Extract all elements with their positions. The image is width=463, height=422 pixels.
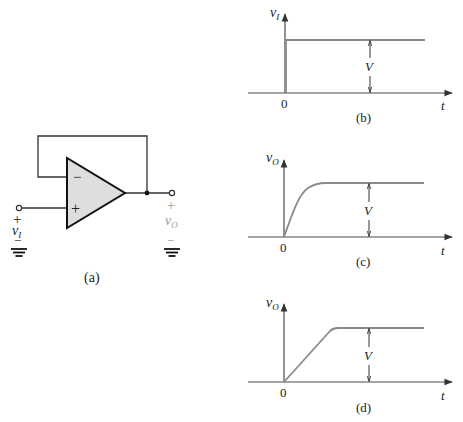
y-axis-label: vO [266, 150, 279, 167]
output-plus-sign: + [167, 198, 175, 213]
y-axis-label: vO [266, 295, 279, 312]
output-terminal [169, 190, 174, 195]
y-axis-label: vI [270, 5, 280, 22]
x-axis-label: t [441, 388, 445, 403]
amplitude-label: V [365, 59, 375, 74]
junction-dot [145, 191, 150, 196]
diagram-canvas: − + + vI − + vO − (a) [0, 0, 463, 422]
voltage-follower-circuit: − + + vI − + vO − (a) [11, 136, 180, 286]
output-voltage-label: vO [165, 213, 178, 230]
graph-b-input-step: V vI 0 t (b) [248, 5, 452, 125]
opamp-inverting-sign: − [73, 169, 81, 185]
x-axis-label: t [441, 98, 445, 113]
step-waveform [286, 40, 425, 93]
origin-label: 0 [281, 96, 288, 111]
caption-a: (a) [84, 270, 100, 286]
amplitude-label: V [364, 348, 374, 363]
input-ground-icon [11, 249, 27, 256]
x-axis-label: t [441, 243, 445, 258]
input-minus-sign: − [14, 233, 21, 248]
ramp-waveform [284, 328, 424, 382]
exponential-waveform [284, 183, 424, 237]
input-terminal [16, 205, 21, 210]
amplitude-label: V [364, 203, 374, 218]
opamp-noninverting-sign: + [71, 200, 80, 217]
output-minus-sign: − [167, 233, 174, 248]
caption-c: (c) [356, 254, 370, 269]
output-ground-icon [164, 249, 180, 256]
graph-c-output-exponential: V vO 0 t (c) [248, 150, 452, 269]
graph-d-output-ramp: V vO 0 t (d) [248, 295, 452, 415]
caption-b: (b) [356, 110, 371, 125]
origin-label: 0 [280, 240, 287, 255]
caption-d: (d) [356, 400, 371, 415]
figure-svg: − + + vI − + vO − (a) [0, 0, 463, 422]
origin-label: 0 [280, 385, 287, 400]
